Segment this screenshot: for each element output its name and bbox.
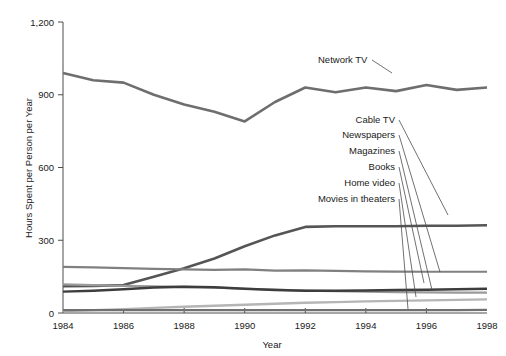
series-label-network-tv: Network TV [318,54,368,65]
series-label-home-video: Home video [344,177,395,188]
series-label-newspapers: Newspapers [342,129,395,140]
series-label-books: Books [369,161,396,172]
data-series [63,73,487,311]
series-line-cable-tv [63,225,487,286]
x-tick-label: 1992 [295,320,316,331]
line-chart: 03006009001,200 198419861988199019921994… [0,0,506,356]
leader-line-home-video [399,183,416,297]
y-tick-label: 600 [38,162,54,173]
leader-line-newspapers [399,135,440,272]
y-tick-label: 900 [38,89,54,100]
series-labels: Network TVCable TVNewspapersMagazinesBoo… [318,54,396,204]
x-tick-label: 1986 [113,320,134,331]
y-axis-ticks: 03006009001,200 [30,17,63,319]
x-tick-label: 1996 [416,320,437,331]
y-tick-label: 0 [49,308,54,319]
series-line-network-tv [63,73,487,122]
series-label-magazines: Magazines [349,145,395,156]
x-tick-label: 1994 [355,320,376,331]
x-tick-label: 1988 [174,320,195,331]
leader-line-magazines [399,151,432,290]
series-label-movies-in-theaters: Movies in theaters [318,193,395,204]
leader-line-network-tv [372,60,392,73]
series-label-cable-tv: Cable TV [356,114,396,125]
x-tick-label: 1998 [476,320,497,331]
y-tick-label: 300 [38,235,54,246]
chart-canvas: 03006009001,200 198419861988199019921994… [0,0,506,356]
series-line-newspapers [63,267,487,272]
y-axis-title: Hours Spent per Person per Year [23,98,34,238]
series-line-books [63,287,487,292]
x-axis-title: Year [262,339,281,350]
x-tick-label: 1984 [52,320,73,331]
y-tick-label: 1,200 [30,17,54,28]
x-axis-ticks: 19841986198819901992199419961998 [52,308,497,331]
x-tick-label: 1990 [234,320,255,331]
